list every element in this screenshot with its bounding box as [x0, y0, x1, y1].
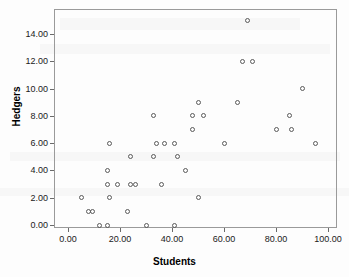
x-tick-mark: [328, 228, 329, 232]
x-tick-label: 60.00: [213, 234, 236, 244]
x-tick-mark: [276, 228, 277, 232]
x-tick-mark: [224, 228, 225, 232]
x-axis-title: Students: [0, 256, 349, 267]
y-axis-title: Hedgers: [11, 86, 22, 126]
x-tick-label: 100.00: [314, 234, 342, 244]
x-tick-label: 0.00: [59, 234, 77, 244]
x-tick-label: 20.00: [109, 234, 132, 244]
x-tick-mark: [68, 228, 69, 232]
x-tick-mark: [172, 228, 173, 232]
x-tick-mark: [120, 228, 121, 232]
x-axis-ticks: 0.0020.0040.0060.0080.00100.00: [0, 0, 349, 277]
x-tick-label: 80.00: [265, 234, 288, 244]
scatter-plot-screenshot: 0.002.004.006.008.0010.0012.0014.00 0.00…: [0, 0, 349, 277]
x-tick-label: 40.00: [161, 234, 184, 244]
